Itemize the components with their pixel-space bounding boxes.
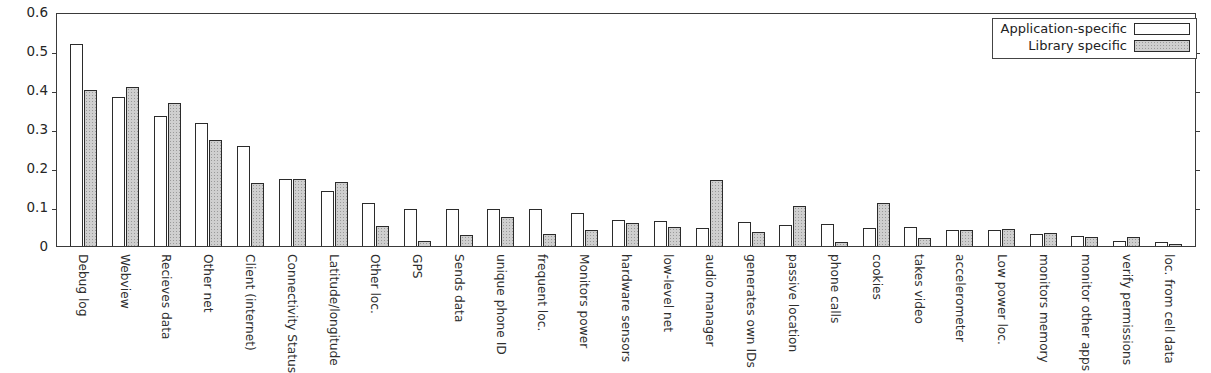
- legend-item[interactable]: Application-specific: [1001, 22, 1190, 37]
- bar-lib[interactable]: [1044, 233, 1057, 246]
- bar-app[interactable]: [863, 228, 876, 246]
- bar-lib[interactable]: [752, 232, 765, 246]
- chart-legend: Application-specificLibrary specific: [992, 18, 1197, 59]
- y-axis-tick-left: [52, 170, 57, 171]
- bar-app[interactable]: [529, 209, 542, 246]
- bar-group: [188, 14, 230, 246]
- bar-app[interactable]: [988, 230, 1001, 246]
- y-axis-tick-right: [1195, 131, 1200, 132]
- x-axis-tick-label: Latitude/longitude: [327, 254, 339, 366]
- legend-swatch-lib: [1134, 40, 1190, 52]
- bar-group: [689, 14, 731, 246]
- bar-lib[interactable]: [126, 87, 139, 247]
- bar-group: [814, 14, 856, 246]
- bar-lib[interactable]: [1127, 237, 1140, 246]
- bar-app[interactable]: [571, 213, 584, 246]
- bar-lib[interactable]: [209, 140, 222, 246]
- x-axis-tick-label: Sends data: [453, 254, 465, 322]
- bar-lib[interactable]: [543, 234, 556, 246]
- bar-app[interactable]: [487, 209, 500, 246]
- x-axis-label-cell: Client (internet): [229, 252, 271, 372]
- bar-lib[interactable]: [626, 223, 639, 246]
- bar-lib[interactable]: [84, 90, 97, 246]
- bar-lib[interactable]: [877, 203, 890, 246]
- legend-label: Application-specific: [1001, 22, 1127, 37]
- bar-app[interactable]: [237, 146, 250, 246]
- bar-lib[interactable]: [668, 227, 681, 246]
- x-axis-label-cell: loc. from cell data: [1148, 252, 1190, 372]
- bar-lib[interactable]: [460, 235, 473, 246]
- bar-lib[interactable]: [960, 230, 973, 246]
- bar-app[interactable]: [696, 228, 709, 246]
- bar-app[interactable]: [904, 227, 917, 247]
- x-axis-label-cell: passive location: [772, 252, 814, 372]
- x-axis-tick-label: Other net: [202, 254, 214, 312]
- bar-lib[interactable]: [710, 180, 723, 246]
- x-axis-label-cell: frequent loc.: [522, 252, 564, 372]
- bar-app[interactable]: [404, 209, 417, 246]
- x-axis-label-cell: Debug log: [62, 252, 104, 372]
- bar-lib[interactable]: [918, 238, 931, 246]
- x-axis-label-cell: Webview: [104, 252, 146, 372]
- x-axis-tick-label: Other loc.: [369, 254, 381, 314]
- x-axis-tick-label: Client (internet): [244, 254, 256, 351]
- bar-app[interactable]: [446, 209, 459, 246]
- x-axis-tick-label: Low power loc.: [996, 254, 1008, 345]
- bar-app[interactable]: [1030, 234, 1043, 246]
- bar-lib[interactable]: [1002, 229, 1015, 246]
- legend-item[interactable]: Library specific: [1001, 39, 1190, 54]
- bar-lib[interactable]: [418, 241, 431, 246]
- bar-lib[interactable]: [335, 182, 348, 246]
- y-axis-tick-label: 0.4: [27, 84, 48, 98]
- y-axis-tick-left: [52, 53, 57, 54]
- bar-app[interactable]: [654, 221, 667, 246]
- x-axis-tick-label: generates own IDs: [745, 254, 757, 368]
- bar-app[interactable]: [321, 191, 334, 246]
- bar-app[interactable]: [1113, 241, 1126, 246]
- x-axis-label-cell: Monitors power: [563, 252, 605, 372]
- x-axis-tick-label: frequent loc.: [536, 254, 548, 331]
- bar-lib[interactable]: [168, 103, 181, 246]
- x-axis-label-cell: low-level net: [647, 252, 689, 372]
- bar-group: [230, 14, 272, 246]
- bar-app[interactable]: [612, 220, 625, 246]
- x-axis-tick-label: audio manager: [704, 254, 716, 346]
- bar-group: [563, 14, 605, 246]
- bar-group: [272, 14, 314, 246]
- bar-lib[interactable]: [1169, 244, 1182, 246]
- bar-app[interactable]: [362, 203, 375, 246]
- bar-app[interactable]: [195, 123, 208, 246]
- bar-lib[interactable]: [251, 183, 264, 246]
- bar-app[interactable]: [779, 225, 792, 246]
- bar-lib[interactable]: [501, 217, 514, 246]
- bar-app[interactable]: [279, 179, 292, 246]
- bar-lib[interactable]: [293, 179, 306, 246]
- bar-app[interactable]: [154, 116, 167, 246]
- bar-group: [438, 14, 480, 246]
- bar-app[interactable]: [112, 97, 125, 246]
- x-axis-tick-label: monitors memory: [1038, 254, 1050, 363]
- x-axis-label-cell: accelerometer: [939, 252, 981, 372]
- bar-group: [730, 14, 772, 246]
- y-axis-tick-label: 0: [39, 240, 48, 254]
- bar-app[interactable]: [946, 230, 959, 246]
- x-axis-label-cell: Other net: [187, 252, 229, 372]
- bar-app[interactable]: [821, 224, 834, 246]
- bar-lib[interactable]: [376, 226, 389, 246]
- bar-app[interactable]: [1071, 236, 1084, 246]
- legend-swatch-app: [1134, 23, 1190, 35]
- bar-lib[interactable]: [585, 230, 598, 246]
- x-axis-tick-label: low-level net: [662, 254, 674, 332]
- bar-lib[interactable]: [1085, 237, 1098, 246]
- bar-group: [522, 14, 564, 246]
- bar-group: [63, 14, 105, 246]
- bar-lib[interactable]: [835, 242, 848, 246]
- bar-lib[interactable]: [793, 206, 806, 246]
- bar-app[interactable]: [1155, 242, 1168, 246]
- bar-app[interactable]: [738, 222, 751, 246]
- x-axis-tick-label: phone calls: [829, 254, 841, 323]
- x-axis-tick-label: cookies: [871, 254, 883, 300]
- bar-app[interactable]: [70, 44, 83, 246]
- y-axis-tick-left: [52, 131, 57, 132]
